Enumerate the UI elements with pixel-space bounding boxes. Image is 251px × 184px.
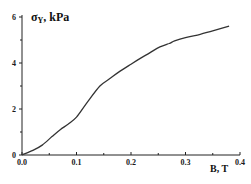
- x-tick-label: 0.3: [181, 158, 191, 167]
- y-tick-label: 6: [12, 13, 16, 22]
- x-tick-label: 0.1: [72, 158, 82, 167]
- y-tick-label: 0: [12, 151, 16, 160]
- data-series-curve: [22, 26, 229, 155]
- y-ticks: 0246: [12, 13, 22, 160]
- y-tick-label: 2: [12, 105, 16, 114]
- x-tick-label: 0.2: [126, 158, 136, 167]
- y-tick-label: 4: [12, 59, 16, 68]
- x-tick-label: 0.4: [235, 158, 245, 167]
- x-tick-label: 0.0: [17, 158, 27, 167]
- chart: 0.00.10.20.30.4 0246 σY, kPa B, T: [0, 0, 251, 184]
- plot-area: 0.00.10.20.30.4 0246: [12, 13, 245, 167]
- y-axis-title: σY, kPa: [31, 10, 69, 25]
- x-axis-title: B, T: [210, 163, 228, 174]
